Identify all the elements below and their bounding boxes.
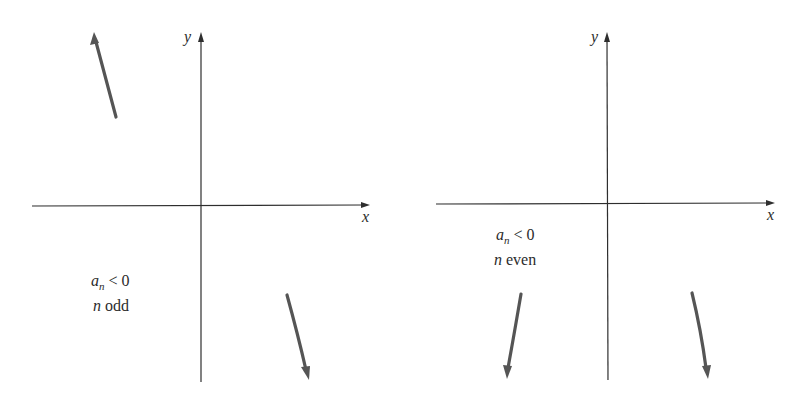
condition-leading-coefficient: an < 0	[91, 272, 130, 292]
y-axis-arrow-icon	[198, 32, 204, 42]
right-end-arrow-icon	[702, 365, 711, 379]
right-end-curve	[692, 293, 706, 368]
condition-degree-parity: n even	[494, 251, 536, 268]
panel-even: x y an < 0 n even	[436, 28, 775, 380]
right-end-curve	[287, 295, 306, 370]
left-end-arrow-icon	[503, 365, 512, 379]
y-axis-arrow-icon	[604, 32, 610, 42]
left-end-curve	[96, 42, 116, 117]
y-axis	[607, 41, 608, 380]
y-axis-label: y	[589, 28, 599, 46]
x-axis-label: x	[361, 208, 369, 225]
x-axis	[436, 203, 767, 204]
right-end-arrow-icon	[301, 366, 310, 380]
condition-degree-parity: n odd	[93, 297, 129, 314]
condition-leading-coefficient: an < 0	[496, 226, 535, 246]
y-axis-label: y	[182, 28, 192, 46]
panel-odd: x y an < 0 n odd	[32, 28, 370, 382]
x-axis	[32, 205, 362, 206]
left-end-arrow-icon	[90, 32, 99, 45]
end-behavior-diagram: x y an < 0 n odd x y an	[0, 0, 810, 405]
left-end-curve	[508, 294, 521, 368]
x-axis-label: x	[766, 206, 774, 223]
